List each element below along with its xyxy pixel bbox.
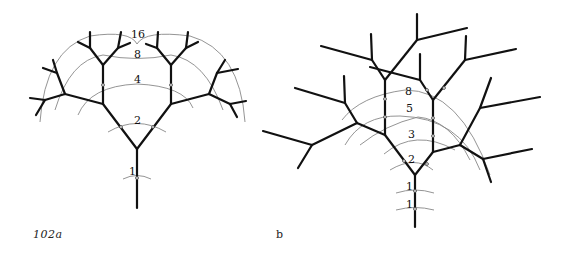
level-label-b-2: 2 (408, 153, 415, 166)
level-label-b-1a: 1 (406, 198, 413, 211)
level-label-a-4: 4 (134, 73, 141, 86)
level-label-b-5: 5 (406, 102, 413, 115)
caption-a: 102a (33, 228, 63, 241)
figure-canvas: 1 2 4 8 16 (0, 0, 566, 254)
caption-b: b (276, 228, 283, 241)
level-label-a-8: 8 (134, 48, 141, 61)
level-label-a-1: 1 (129, 165, 136, 178)
level-label-b-8: 8 (405, 85, 412, 98)
level-label-a-16: 16 (131, 28, 145, 41)
tree-b: 1 1 2 3 5 8 (263, 14, 540, 227)
tree-a: 1 2 4 8 16 (30, 28, 246, 208)
level-label-a-2: 2 (134, 114, 141, 127)
level-label-b-1b: 1 (406, 180, 413, 193)
level-label-b-3: 3 (408, 128, 415, 141)
